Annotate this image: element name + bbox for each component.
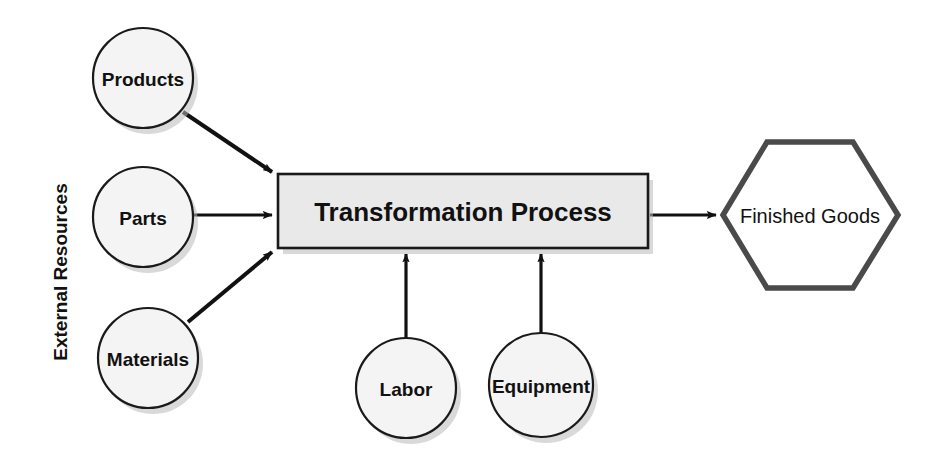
equipment-label: Equipment <box>492 376 591 397</box>
input-node-parts[interactable]: Parts <box>93 167 198 273</box>
input-node-products[interactable]: Products <box>93 28 198 134</box>
labor-label: Labor <box>380 379 433 400</box>
external-resources-label: External Resources <box>50 183 71 360</box>
parts-label: Parts <box>119 208 167 229</box>
products-label: Products <box>102 69 184 90</box>
diagram-canvas: External Resources Products Parts Mater <box>0 0 939 475</box>
output-node-finished-goods[interactable]: Finished Goods <box>723 142 898 288</box>
connector-products-to-process <box>183 112 272 172</box>
external-resources-label-group: External Resources <box>50 183 71 360</box>
connector-materials-to-process <box>188 252 272 322</box>
resource-node-equipment[interactable]: Equipment <box>489 333 598 443</box>
input-node-materials[interactable]: Materials <box>98 308 203 414</box>
process-node[interactable]: Transformation Process <box>278 174 653 254</box>
process-flow-diagram: External Resources Products Parts Mater <box>0 0 939 475</box>
materials-label: Materials <box>107 349 189 370</box>
process-label: Transformation Process <box>314 197 612 227</box>
resource-node-labor[interactable]: Labor <box>356 338 461 444</box>
finished-goods-label: Finished Goods <box>740 205 880 227</box>
